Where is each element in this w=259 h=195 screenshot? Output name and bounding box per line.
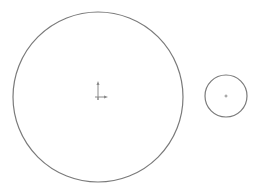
drawing-canvas: [0, 0, 259, 195]
center-mark-icon: [225, 95, 228, 98]
origin-axes-icon: [95, 81, 108, 100]
